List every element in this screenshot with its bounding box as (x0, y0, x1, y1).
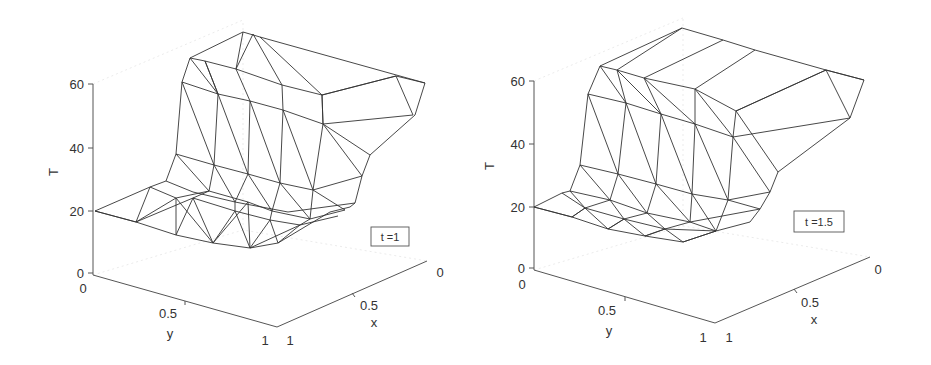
z-ticks (88, 84, 93, 273)
z-axis-label: T (482, 162, 497, 170)
y-tick-label: 0 (518, 277, 525, 292)
z-tick-label: 0 (518, 261, 525, 276)
y-tick-label: 0 (79, 281, 86, 296)
z-axis-label: T (46, 168, 61, 176)
y-axis (534, 270, 715, 323)
x-tick-label: 0.5 (360, 298, 378, 313)
z-ticks (529, 81, 534, 268)
y-axis-label: y (606, 323, 613, 338)
x-tick-label: 1 (725, 330, 732, 345)
x-axis-label: x (811, 312, 818, 327)
plot-right: 60 40 20 0 T 0 0.5 1 y 1 0.5 0 x (482, 18, 882, 345)
z-tick-label: 60 (70, 77, 84, 92)
z-tick-label: 60 (511, 74, 525, 89)
y-axis-label: y (167, 326, 174, 341)
x-axis (715, 257, 870, 323)
z-tick-label: 20 (70, 204, 84, 219)
x-tick-label: 0.5 (801, 295, 819, 310)
annotation-label: t =1 (381, 231, 400, 243)
y-tick-label: 0.5 (159, 306, 177, 321)
z-tick-label: 40 (70, 141, 84, 156)
y-tick-label: 1 (261, 333, 268, 348)
x-axis-label: x (371, 315, 378, 330)
figure: 60 40 20 0 T 0 0.5 1 y 1 0.5 0 x (0, 0, 931, 365)
annotation-label: t =1.5 (805, 216, 833, 228)
surface-mesh (534, 28, 864, 242)
z-tick-label: 0 (77, 266, 84, 281)
x-tick-mid (794, 289, 797, 293)
y-tick-label: 0.5 (598, 303, 616, 318)
y-tick-label: 1 (699, 330, 706, 345)
x-tick-label: 1 (286, 333, 293, 348)
x-tick-label: 0 (874, 262, 881, 277)
z-tick-label: 20 (511, 200, 525, 215)
z-tick-label: 40 (511, 137, 525, 152)
x-axis (277, 261, 427, 327)
plot-left: 60 40 20 0 T 0 0.5 1 y 1 0.5 0 x (46, 20, 444, 348)
surface-mesh (95, 32, 425, 248)
x-tick-label: 0 (436, 265, 443, 280)
